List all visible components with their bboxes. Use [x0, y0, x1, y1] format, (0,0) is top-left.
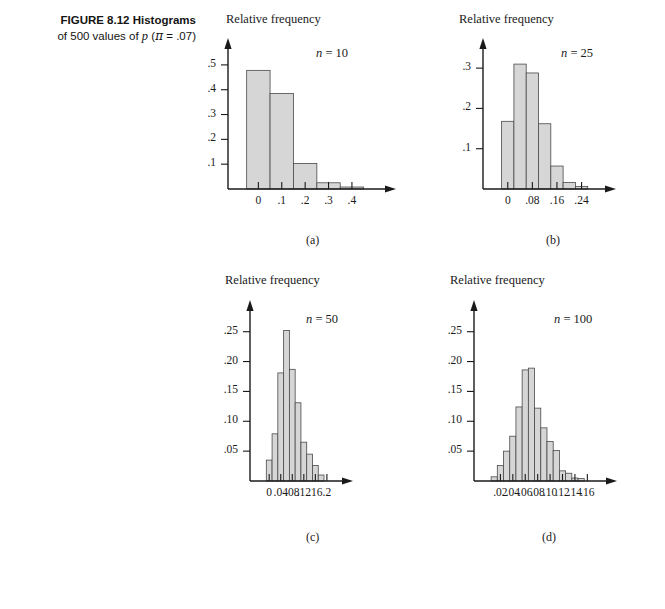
y-axis-tick-label: .1 [451, 141, 471, 153]
panel-label-b: (b) [546, 233, 560, 248]
histogram-panel-a: Relative frequencyn = 10(a).1.2.3.4.50.1… [196, 28, 406, 213]
figure-equals: = [166, 30, 173, 42]
x-axis-tick-label: .4 [332, 194, 372, 206]
sample-size-annotation-d: n = 100 [554, 312, 592, 327]
panel-label-d: (d) [542, 530, 556, 545]
histogram-bar [522, 370, 528, 481]
histogram-bar [307, 454, 313, 481]
histogram-plot-a [196, 28, 406, 213]
sample-size-value-a: = 10 [322, 46, 348, 60]
y-axis-tick-label: .10 [442, 413, 462, 425]
histogram-bar [295, 403, 301, 481]
y-axis-tick-label: .15 [442, 383, 462, 395]
figure-title-line2: of 500 values of [57, 30, 138, 42]
histogram-bar [278, 373, 284, 481]
histogram-bar [526, 73, 538, 189]
figure-title-line1: Histograms [133, 14, 196, 26]
y-axis-tick-label: .4 [196, 82, 216, 94]
x-axis-arrow-a [385, 185, 396, 192]
figure-pi-symbol: π [155, 29, 163, 43]
histogram-bar [289, 369, 295, 481]
x-axis-arrow-c [342, 477, 353, 484]
y-axis-title-d: Relative frequency [450, 273, 545, 288]
y-axis-tick-label: .10 [218, 413, 238, 425]
y-axis-tick-label: .05 [218, 443, 238, 455]
y-axis-tick-label: .3 [451, 60, 471, 72]
sample-size-value-c: = 50 [312, 312, 338, 326]
sample-size-value-b: = 25 [567, 46, 593, 60]
figure-caption: FIGURE 8.12 Histograms of 500 values of … [18, 12, 196, 44]
histogram-plot-d [442, 290, 627, 505]
y-axis-tick-label: .2 [196, 131, 216, 143]
y-axis-tick-label: .2 [451, 100, 471, 112]
y-axis-arrow-a [224, 38, 231, 49]
y-axis-tick-label: .05 [442, 443, 462, 455]
y-axis-title-a: Relative frequency [226, 12, 321, 27]
histogram-bar [502, 121, 514, 189]
y-axis-tick-label: .20 [442, 354, 462, 366]
histogram-bar [553, 451, 559, 481]
y-axis-tick-label: .5 [196, 57, 216, 69]
histogram-bar [566, 473, 572, 481]
histogram-bar [272, 434, 278, 481]
histogram-bar [284, 331, 290, 481]
histogram-bar [539, 124, 551, 189]
sample-size-annotation-c: n = 50 [306, 312, 338, 327]
sample-size-annotation-a: n = 10 [316, 46, 348, 61]
panel-label-a: (a) [306, 233, 319, 248]
y-axis-arrow-c [246, 300, 253, 311]
x-axis-tick-label: .16 [567, 486, 607, 498]
histogram-bar [541, 428, 547, 481]
histogram-bar [270, 93, 293, 189]
y-axis-tick-label: .25 [218, 324, 238, 336]
histogram-panel-b: Relative frequencyn = 25(b).1.2.30.08.16… [451, 28, 626, 213]
histogram-bar [528, 368, 534, 481]
sample-size-annotation-b: n = 25 [561, 46, 593, 61]
y-axis-tick-label: .15 [218, 383, 238, 395]
histogram-bar [504, 451, 510, 481]
y-axis-tick-label: .25 [442, 324, 462, 336]
histogram-panel-c: Relative frequencyn = 50(c).05.10.15.20.… [218, 290, 363, 505]
y-axis-arrow-d [470, 300, 477, 311]
x-axis-tick-label: .2 [307, 486, 347, 498]
y-axis-tick-label: .20 [218, 354, 238, 366]
y-axis-tick-label: .1 [196, 156, 216, 168]
histogram-bar [247, 70, 270, 189]
histogram-bar [563, 183, 575, 189]
y-axis-arrow-b [479, 38, 486, 49]
panel-label-c: (c) [306, 530, 319, 545]
figure-number: FIGURE 8.12 [60, 14, 129, 26]
y-axis-tick-label: .3 [196, 107, 216, 119]
histogram-panel-d: Relative frequencyn = 100(d).05.10.15.20… [442, 290, 627, 505]
y-axis-title-c: Relative frequency [225, 273, 320, 288]
histogram-plot-b [451, 28, 626, 213]
histogram-plot-c [218, 290, 363, 505]
histogram-bar [318, 475, 324, 481]
sample-size-value-d: = 100 [560, 312, 592, 326]
histogram-bar [516, 407, 522, 481]
figure-title-variable: p [142, 29, 148, 43]
histogram-bar [535, 408, 541, 481]
x-axis-tick-label: .24 [562, 194, 602, 206]
x-axis-arrow-d [606, 477, 617, 484]
figure-pi-value: .07) [176, 30, 196, 42]
x-axis-arrow-b [605, 185, 616, 192]
y-axis-title-b: Relative frequency [459, 12, 554, 27]
histogram-bar [514, 64, 526, 189]
